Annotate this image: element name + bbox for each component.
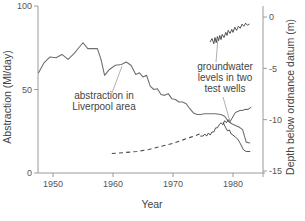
x-tick-label: 1980 — [223, 179, 243, 189]
x-tick-label: 1970 — [163, 179, 183, 189]
y-axis-right-ticklabels: 0-5-10-15 — [269, 12, 282, 176]
x-axis-ticklabels: 1950196019701980 — [43, 179, 243, 189]
abstraction-annotation-line2: Liverpool area — [72, 101, 136, 112]
chart-svg: 050100 1950196019701980 0-5-10-15 Abstra… — [0, 0, 305, 221]
series-line — [210, 23, 249, 44]
y2-tick-label: -15 — [269, 166, 282, 176]
series-line — [223, 123, 249, 152]
y-tick-label: 0 — [27, 168, 32, 178]
y2-tick-label: -10 — [269, 115, 282, 125]
groundwater-annotation-line2: levels in two — [198, 72, 253, 83]
x-axis-ticks — [53, 173, 233, 177]
y-axis-left-ticks — [34, 6, 38, 173]
y-axis-left-ticklabels: 050100 — [17, 1, 32, 178]
groundwater-annotation: groundwater levels in two test wells — [197, 61, 253, 94]
x-tick-label: 1960 — [103, 179, 123, 189]
y-axis-right-title: Depth below ordnance datum (m) — [284, 19, 296, 175]
abstraction-annotation-line1: abstraction in — [74, 90, 133, 101]
x-tick-label: 1950 — [43, 179, 63, 189]
groundwater-annotation-line1: groundwater — [197, 61, 253, 72]
figure-container: 050100 1950196019701980 0-5-10-15 Abstra… — [0, 0, 305, 221]
y-tick-label: 100 — [17, 1, 32, 11]
series-line — [112, 133, 202, 154]
y2-tick-label: 0 — [269, 12, 274, 22]
y2-tick-label: -5 — [269, 64, 277, 74]
y-tick-label: 50 — [22, 85, 32, 95]
y-axis-left-title: Abstraction (Ml/day) — [1, 50, 13, 143]
abstraction-annotation: abstraction in Liverpool area — [72, 90, 136, 112]
x-axis-title: Year — [141, 198, 163, 210]
groundwater-annotation-line3: test wells — [204, 83, 245, 94]
axes-group: 050100 1950196019701980 0-5-10-15 — [17, 1, 282, 189]
abstraction-leader-line — [112, 66, 122, 93]
y-axis-right-ticks — [263, 17, 267, 171]
